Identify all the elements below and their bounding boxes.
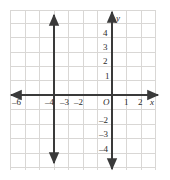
coordinate-plane-svg (0, 0, 170, 180)
x-tick-label-pos1: 1 (124, 98, 129, 107)
x-tick-label-neg6: –6 (12, 98, 21, 107)
graph-figure: –6 –4 –3 –2 1 2 O 4 3 2 1 –2 –3 –4 x y (0, 0, 170, 180)
y-tick-label-neg4: –4 (99, 145, 108, 154)
x-tick-label-neg3: –3 (60, 98, 69, 107)
y-tick-label-neg2: –2 (99, 116, 108, 125)
origin-label: O (103, 98, 110, 107)
grid (10, 10, 156, 170)
x-axis-label: x (150, 98, 154, 107)
y-tick-label-pos2: 2 (103, 57, 108, 66)
x-tick-label-neg4: –4 (45, 98, 54, 107)
y-tick-label-pos3: 3 (103, 43, 108, 52)
y-tick-label-pos4: 4 (103, 29, 108, 38)
x-tick-label-pos2: 2 (138, 98, 143, 107)
y-axis-label: y (116, 14, 120, 23)
x-tick-label-neg2: –2 (74, 98, 83, 107)
y-tick-label-neg3: –3 (99, 130, 108, 139)
y-tick-label-pos1: 1 (105, 72, 110, 81)
axes (11, 12, 158, 169)
